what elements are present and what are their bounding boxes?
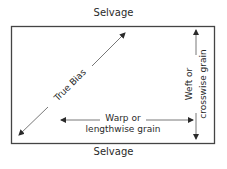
bias-arrow-upper [92, 33, 125, 66]
warp-label-line1: Warp or [98, 113, 148, 123]
bottom-selvage-label: Selvage [0, 146, 227, 157]
weft-label-line1: Weft or [184, 49, 194, 119]
weft-label-line2: crosswise grain [198, 49, 208, 119]
warp-label-line2: lengthwise grain [78, 124, 168, 134]
bias-arrow-lower [19, 107, 48, 135]
top-selvage-label: Selvage [0, 7, 227, 18]
